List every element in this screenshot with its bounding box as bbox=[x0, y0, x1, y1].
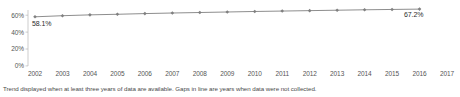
start-value-label: 58.1% bbox=[32, 20, 51, 27]
x-tick-label-2008: 2008 bbox=[187, 70, 213, 77]
data-point-marker bbox=[116, 12, 120, 16]
x-tick-label-2006: 2006 bbox=[132, 70, 158, 77]
data-point-marker bbox=[88, 13, 92, 17]
data-point-marker bbox=[335, 8, 339, 12]
data-point-marker bbox=[363, 8, 367, 12]
data-point-marker bbox=[33, 15, 37, 19]
x-tick-label-2010: 2010 bbox=[242, 70, 268, 77]
x-tick-label-2007: 2007 bbox=[159, 70, 185, 77]
x-tick-label-2003: 2003 bbox=[49, 70, 75, 77]
chart-footnote: Trend displayed when at least three year… bbox=[3, 85, 316, 92]
data-point-marker bbox=[198, 11, 202, 15]
data-point-marker bbox=[390, 8, 394, 12]
data-point-marker bbox=[61, 14, 65, 18]
data-point-marker bbox=[225, 10, 229, 14]
y-tick-label-40: 40% bbox=[0, 29, 24, 36]
data-point-marker bbox=[143, 12, 147, 16]
y-tick-label-60: 60% bbox=[0, 12, 24, 19]
x-tick-label-2002: 2002 bbox=[22, 70, 48, 77]
y-tick-label-0: 0% bbox=[0, 62, 24, 69]
data-point-markers bbox=[33, 7, 421, 18]
x-tick-label-2012: 2012 bbox=[297, 70, 323, 77]
x-tick-label-2004: 2004 bbox=[77, 70, 103, 77]
x-tick-label-2015: 2015 bbox=[379, 70, 405, 77]
data-point-marker bbox=[253, 10, 257, 14]
line-chart-figure: 60% 40% 20% 0% 58.1% 67.2% 2002200320042… bbox=[0, 0, 460, 97]
x-tick-label-2017: 2017 bbox=[434, 70, 460, 77]
y-axis-ticks bbox=[26, 15, 29, 66]
data-point-marker bbox=[171, 11, 175, 15]
x-tick-label-2009: 2009 bbox=[214, 70, 240, 77]
data-point-marker bbox=[308, 9, 312, 13]
data-point-marker bbox=[280, 9, 284, 13]
x-tick-label-2011: 2011 bbox=[269, 70, 295, 77]
chart-plot-area bbox=[0, 0, 460, 97]
x-tick-label-2005: 2005 bbox=[104, 70, 130, 77]
y-tick-label-20: 20% bbox=[0, 45, 24, 52]
x-tick-label-2016: 2016 bbox=[407, 70, 433, 77]
end-value-label: 67.2% bbox=[404, 11, 423, 18]
x-tick-label-2013: 2013 bbox=[324, 70, 350, 77]
x-tick-label-2014: 2014 bbox=[352, 70, 378, 77]
